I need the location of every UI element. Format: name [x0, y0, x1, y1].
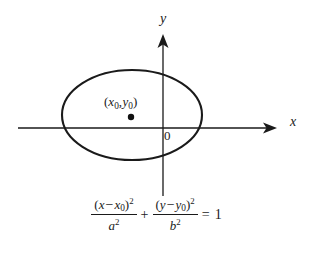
- x-axis-label: x: [290, 115, 296, 129]
- equation-row: (x−x0)2 a2 + (y−y0)2 b2 = 1: [91, 196, 222, 234]
- term-2-denominator: b2: [167, 215, 184, 234]
- term-2-numerator-power: 2: [190, 196, 194, 206]
- term-2-y-var: y: [160, 197, 166, 212]
- equation-equals-sign: =: [201, 207, 211, 223]
- ellipse-figure: y x 0 (x0,y0) (x−x0)2 a2 + (y−y0)2 b2 = …: [0, 0, 314, 258]
- origin-label: 0: [164, 129, 171, 142]
- term-2-denominator-power: 2: [176, 217, 180, 227]
- center-label-close-paren: ): [133, 94, 137, 109]
- center-point-label: (x0,y0): [104, 95, 137, 111]
- term-2-minus: −: [166, 197, 176, 212]
- term-2-numerator: (y−y0)2: [153, 196, 198, 214]
- term-1-minus: −: [104, 197, 114, 212]
- equation-right-hand-side: 1: [214, 207, 223, 223]
- ellipse-equation: (x−x0)2 a2 + (y−y0)2 b2 = 1: [0, 196, 314, 234]
- term-1-denominator-power: 2: [115, 217, 119, 227]
- equation-term-1: (x−x0)2 a2: [91, 196, 136, 234]
- term-1-denominator: a2: [106, 215, 123, 234]
- equation-term-2: (y−y0)2 b2: [153, 196, 198, 234]
- equation-plus-sign: +: [140, 207, 150, 223]
- term-1-numerator-power: 2: [129, 196, 133, 206]
- y-axis-label: y: [160, 12, 166, 26]
- ellipse-center-dot: [128, 114, 134, 120]
- term-1-numerator: (x−x0)2: [91, 196, 136, 214]
